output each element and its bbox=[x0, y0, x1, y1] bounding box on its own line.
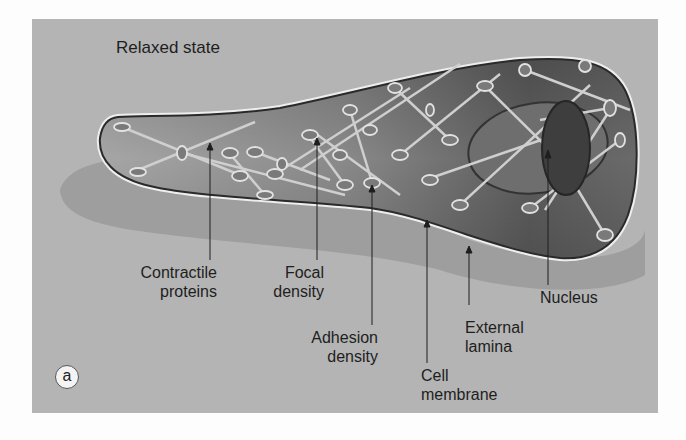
panel-label-badge: a bbox=[55, 365, 79, 389]
label-nucleus: Nucleus bbox=[540, 288, 598, 307]
label-focal-density-line2: density bbox=[256, 282, 324, 301]
label-contractile-proteins-line2: proteins bbox=[116, 282, 217, 301]
label-external-lamina: External lamina bbox=[465, 318, 524, 356]
label-adhesion-density-line2: density bbox=[288, 347, 378, 366]
nucleus bbox=[542, 101, 590, 195]
figure-title: Relaxed state bbox=[116, 38, 220, 58]
label-cell-membrane-line1: Cell bbox=[421, 366, 497, 385]
label-adhesion-density-line1: Adhesion bbox=[288, 328, 378, 347]
label-focal-density-line1: Focal bbox=[256, 263, 324, 282]
label-contractile-proteins-line1: Contractile bbox=[116, 263, 217, 282]
label-adhesion-density: Adhesion density bbox=[288, 328, 378, 366]
label-cell-membrane-line2: membrane bbox=[421, 385, 497, 404]
smooth-muscle-cell-diagram bbox=[0, 0, 686, 440]
label-external-lamina-line2: lamina bbox=[465, 337, 524, 356]
label-focal-density: Focal density bbox=[256, 263, 324, 301]
label-external-lamina-line1: External bbox=[465, 318, 524, 337]
label-nucleus-line1: Nucleus bbox=[540, 288, 598, 307]
label-contractile-proteins: Contractile proteins bbox=[116, 263, 217, 301]
label-cell-membrane: Cell membrane bbox=[421, 366, 497, 404]
